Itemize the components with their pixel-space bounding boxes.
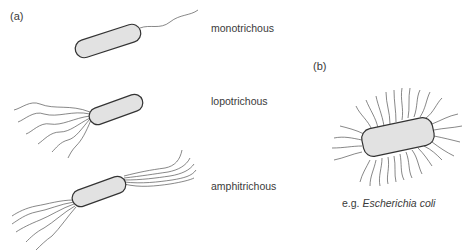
peritrichous-bacterium-icon [332, 88, 462, 186]
amphitrichous-bacterium-icon [12, 150, 196, 250]
lophotrichous-bacterium-icon [14, 92, 145, 158]
flagella-diagram [0, 0, 468, 252]
monotrichous-bacterium-icon [73, 10, 198, 60]
